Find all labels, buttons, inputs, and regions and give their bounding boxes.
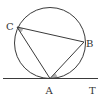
- label-c: C: [6, 21, 14, 32]
- segment-ca: [17, 27, 50, 79]
- label-t: T: [89, 85, 96, 96]
- circle-tangent-diagram: C B A T: [0, 0, 102, 98]
- segment-cb: [17, 27, 84, 42]
- circle: [15, 8, 86, 79]
- label-a: A: [45, 85, 54, 96]
- label-b: B: [86, 38, 93, 49]
- segment-ab: [50, 42, 84, 79]
